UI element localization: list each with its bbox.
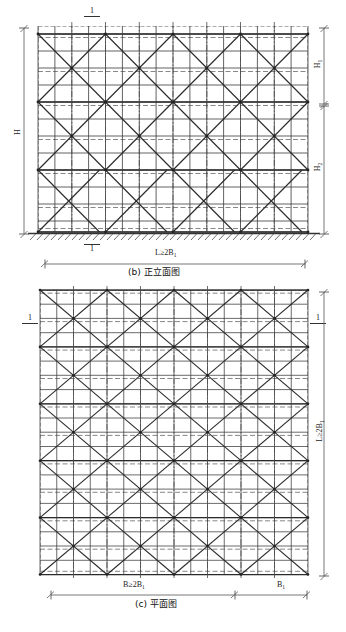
section-marker-plan-left-label: 1 — [22, 314, 38, 322]
dimension-label-plan-L: L≥2B1 — [316, 414, 324, 448]
elevation-figure: 1 — [0, 0, 346, 275]
dimension-label-H1: H1 — [314, 53, 322, 75]
section-marker-top-label: 1 — [84, 7, 100, 15]
caption-plan: (c) 平面图 — [135, 597, 177, 610]
ground-hatching — [28, 232, 320, 244]
dimension-label-L: L≥2B1 — [155, 249, 176, 257]
plan-figure: 1 1 L≥2B1 B≥2B1 B1 (c) 平面图 — [0, 285, 346, 632]
section-marker-top-bar — [84, 16, 100, 17]
caption-elevation: (b) 正立面图 — [128, 265, 180, 278]
section-marker-top: 1 — [84, 7, 100, 17]
plan-grid — [40, 290, 308, 575]
section-marker-bottom: 1 — [84, 243, 100, 253]
dimension-label-H: H — [14, 123, 22, 141]
dimension-line-plan-bottom — [48, 590, 310, 600]
elevation-grid — [38, 26, 308, 234]
dimension-label-plan-B: B≥2B1 — [123, 581, 145, 589]
section-marker-plan-left-bar — [22, 323, 38, 324]
dimension-label-plan-B1: B1 — [277, 581, 285, 589]
section-marker-bottom-label: 1 — [84, 245, 100, 253]
dimension-label-H2: H2 — [314, 156, 322, 178]
section-marker-plan-left: 1 — [22, 314, 38, 324]
